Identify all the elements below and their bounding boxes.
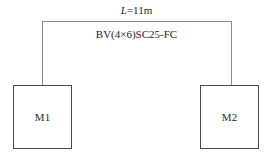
equipment-label-m1: M1 — [35, 112, 51, 123]
cable-length-label: L=11m — [0, 5, 273, 16]
equipment-label-m2: M2 — [222, 112, 238, 123]
equipment-box-m2: M2 — [200, 85, 259, 149]
equipment-box-m1: M1 — [13, 85, 72, 149]
length-value: =11m — [127, 4, 152, 16]
wiring-diagram: L=11m BV(4×6)SC25-FC M1 M2 — [0, 0, 273, 157]
cable-horizontal-run — [42, 21, 232, 22]
cable-spec-label: BV(4×6)SC25-FC — [0, 29, 273, 40]
